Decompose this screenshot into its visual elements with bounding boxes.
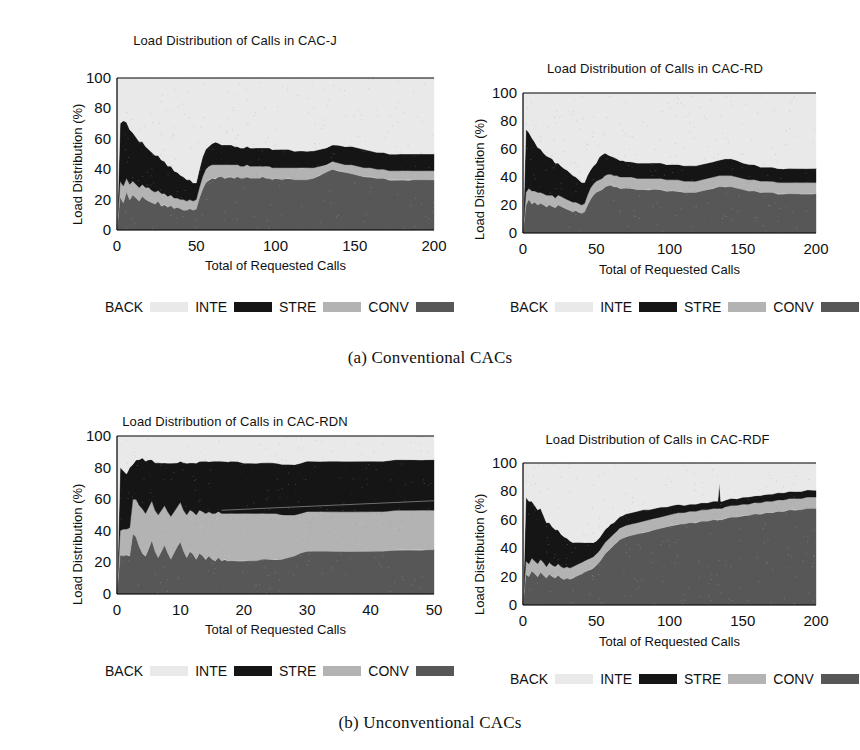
plot-area — [117, 436, 434, 594]
chart-legend: BACKINTESTRECONV — [510, 672, 860, 686]
legend-label: STRE — [279, 664, 316, 678]
x-tick-label: 150 — [718, 241, 768, 256]
legend-label: BACK — [105, 664, 143, 678]
y-tick-label: 100 — [477, 85, 517, 100]
legend-label: INTE — [195, 664, 227, 678]
x-tick-label: 20 — [219, 602, 269, 617]
x-tick-label: 30 — [282, 602, 332, 617]
y-tick-label: 0 — [477, 597, 517, 612]
legend-entry-stre: STRE — [684, 672, 773, 686]
legend-swatch-back — [555, 302, 593, 312]
figure-root: Load Distribution of Calls in CAC-J Load… — [0, 0, 860, 750]
legend-label: BACK — [105, 300, 143, 314]
y-tick-label: 80 — [71, 460, 111, 475]
legend-label: BACK — [510, 300, 548, 314]
legend-swatch-inte — [639, 674, 677, 684]
legend-swatch-inte — [234, 302, 272, 312]
legend-label: BACK — [510, 672, 548, 686]
subcaption-b: (b) Unconventional CACs — [0, 713, 860, 733]
y-tick-label: 60 — [71, 491, 111, 506]
legend-swatch-conv — [821, 674, 859, 684]
chart-panel-cac-rdn: Load Distribution of Calls in CAC-RDN Lo… — [0, 400, 440, 730]
x-axis-label: Total of Requested Calls — [523, 262, 816, 277]
legend-entry-inte: INTE — [600, 300, 684, 314]
legend-swatch-stre — [728, 674, 766, 684]
y-tick-label: 40 — [71, 523, 111, 538]
y-tick-label: 100 — [71, 428, 111, 443]
y-tick-label: 0 — [477, 225, 517, 240]
legend-entry-inte: INTE — [195, 300, 279, 314]
x-tick-label: 10 — [155, 602, 205, 617]
legend-label: INTE — [600, 300, 632, 314]
y-tick-label: 100 — [71, 70, 111, 85]
legend-swatch-inte — [639, 302, 677, 312]
legend-swatch-inte — [234, 666, 272, 676]
legend-swatch-conv — [821, 302, 859, 312]
x-tick-label: 50 — [171, 238, 221, 253]
y-tick-label: 20 — [477, 197, 517, 212]
x-tick-label: 150 — [718, 613, 768, 628]
legend-label: INTE — [195, 300, 227, 314]
y-tick-label: 80 — [477, 113, 517, 128]
legend-entry-conv: CONV — [773, 672, 860, 686]
x-tick-label: 40 — [346, 602, 396, 617]
legend-label: CONV — [773, 300, 813, 314]
x-axis-label: Total of Requested Calls — [117, 258, 434, 273]
y-tick-label: 0 — [71, 222, 111, 237]
legend-entry-back: BACK — [105, 664, 195, 678]
x-tick-label: 0 — [498, 613, 548, 628]
y-tick-label: 80 — [71, 100, 111, 115]
x-axis-label: Total of Requested Calls — [523, 634, 816, 649]
legend-swatch-stre — [728, 302, 766, 312]
legend-swatch-back — [150, 666, 188, 676]
y-tick-label: 20 — [71, 192, 111, 207]
legend-swatch-stre — [323, 666, 361, 676]
legend-entry-stre: STRE — [279, 300, 368, 314]
x-tick-label: 150 — [330, 238, 380, 253]
legend-label: STRE — [279, 300, 316, 314]
x-tick-label: 50 — [571, 241, 621, 256]
legend-swatch-back — [555, 674, 593, 684]
legend-entry-back: BACK — [105, 300, 195, 314]
chart-panel-cac-rd: Load Distribution of Calls in CAC-RD Loa… — [440, 0, 860, 330]
x-tick-label: 0 — [92, 602, 142, 617]
chart-legend: BACKINTESTRECONV — [105, 300, 461, 314]
legend-swatch-back — [150, 302, 188, 312]
legend-label: STRE — [684, 672, 721, 686]
x-tick-label: 0 — [92, 238, 142, 253]
y-tick-label: 20 — [477, 569, 517, 584]
legend-entry-back: BACK — [510, 672, 600, 686]
legend-entry-inte: INTE — [195, 664, 279, 678]
x-tick-label: 200 — [791, 613, 841, 628]
legend-entry-conv: CONV — [773, 300, 860, 314]
x-tick-label: 100 — [645, 241, 695, 256]
legend-label: CONV — [773, 672, 813, 686]
y-tick-label: 0 — [71, 586, 111, 601]
chart-panel-cac-rdf: Load Distribution of Calls in CAC-RDF Lo… — [440, 400, 860, 730]
x-axis-label: Total of Requested Calls — [117, 622, 434, 637]
plot-area — [523, 93, 816, 233]
legend-entry-back: BACK — [510, 300, 600, 314]
legend-entry-inte: INTE — [600, 672, 684, 686]
legend-label: CONV — [368, 300, 408, 314]
x-tick-label: 50 — [571, 613, 621, 628]
chart-legend: BACKINTESTRECONV — [510, 300, 860, 314]
y-tick-label: 60 — [477, 512, 517, 527]
y-tick-label: 40 — [477, 169, 517, 184]
y-tick-label: 60 — [71, 131, 111, 146]
legend-label: CONV — [368, 664, 408, 678]
x-tick-label: 100 — [251, 238, 301, 253]
legend-entry-stre: STRE — [684, 300, 773, 314]
y-tick-label: 20 — [71, 554, 111, 569]
legend-swatch-stre — [323, 302, 361, 312]
y-tick-label: 40 — [71, 161, 111, 176]
legend-entry-stre: STRE — [279, 664, 368, 678]
subcaption-a: (a) Conventional CACs — [0, 348, 860, 368]
legend-label: STRE — [684, 300, 721, 314]
y-tick-label: 100 — [477, 455, 517, 470]
x-tick-label: 0 — [498, 241, 548, 256]
chart-panel-cac-j: Load Distribution of Calls in CAC-J Load… — [0, 0, 440, 330]
y-tick-label: 80 — [477, 483, 517, 498]
legend-label: INTE — [600, 672, 632, 686]
plot-area — [523, 463, 816, 605]
